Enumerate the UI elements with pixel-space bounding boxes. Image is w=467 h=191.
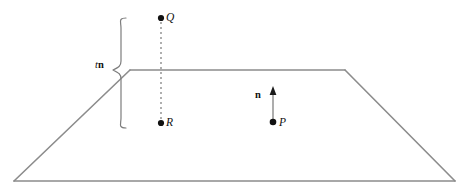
point-label-Q: Q bbox=[166, 12, 174, 24]
brace-label-vector: n bbox=[98, 59, 104, 70]
plane-edge-right bbox=[345, 70, 455, 181]
plane-quadrilateral bbox=[14, 70, 455, 181]
vector-label-n: n bbox=[255, 90, 261, 101]
diagram-root: Q R P n tn bbox=[0, 0, 467, 191]
brace-label-tn: tn bbox=[95, 60, 104, 71]
point-label-P: P bbox=[279, 117, 286, 129]
point-dot-R bbox=[158, 120, 164, 126]
point-dot-Q bbox=[158, 15, 164, 21]
point-dot-P bbox=[270, 119, 277, 126]
diagram-canvas bbox=[0, 0, 467, 191]
point-label-R: R bbox=[166, 117, 173, 129]
normal-vector-arrowhead bbox=[270, 86, 277, 95]
normal-vector-n bbox=[270, 86, 277, 120]
tn-brace bbox=[113, 18, 126, 128]
tn-brace-path bbox=[113, 18, 126, 128]
plane-edge-left bbox=[14, 70, 130, 181]
